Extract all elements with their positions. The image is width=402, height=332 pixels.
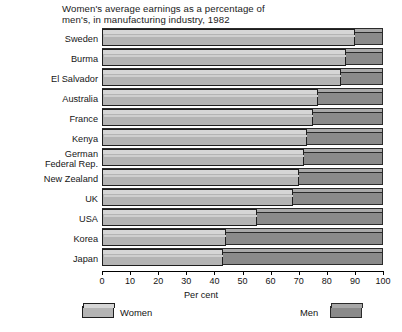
- bar-women-top-face: [102, 169, 299, 174]
- bar-row: [102, 128, 383, 148]
- legend-label-women: Women: [120, 307, 152, 318]
- x-axis-tick: [355, 271, 356, 275]
- x-axis-tick: [271, 271, 272, 275]
- bar-women-top-face: [102, 149, 304, 154]
- bar-women-top-face: [102, 29, 355, 34]
- bar-women-highlight: [104, 35, 355, 37]
- category-label-line: Korea: [2, 234, 98, 244]
- bar-women-highlight: [104, 255, 223, 257]
- bar-women-top-face: [102, 69, 341, 74]
- x-axis-tick-label: 100: [368, 276, 398, 286]
- bar-women: [102, 213, 257, 226]
- category-label-line: USA: [2, 214, 98, 224]
- bar-women: [102, 153, 304, 166]
- x-axis-tick-label: 80: [312, 276, 342, 286]
- bar-women-highlight: [104, 235, 226, 237]
- bar-row: [102, 228, 383, 248]
- category-label: GermanFederal Rep.: [2, 149, 98, 169]
- category-label: Korea: [2, 234, 98, 244]
- x-axis-tick-label: 30: [171, 276, 201, 286]
- bar-women: [102, 133, 307, 146]
- x-axis-tick: [130, 271, 131, 275]
- bar-women: [102, 173, 299, 186]
- bar-women-highlight: [104, 155, 304, 157]
- category-label: Japan: [2, 254, 98, 264]
- bar-women: [102, 253, 223, 266]
- x-axis-tick: [327, 271, 328, 275]
- bar-women-top-face: [102, 129, 307, 134]
- x-axis-tick: [214, 271, 215, 275]
- bar-row: [102, 88, 383, 108]
- bar-women: [102, 73, 341, 86]
- x-axis-tick-label: 10: [115, 276, 145, 286]
- category-label-line: Japan: [2, 254, 98, 264]
- x-axis-tick: [243, 271, 244, 275]
- category-label: Australia: [2, 94, 98, 104]
- category-label-line: Kenya: [2, 134, 98, 144]
- bar-women-top-face: [102, 89, 318, 94]
- bar-women-highlight: [104, 175, 299, 177]
- x-axis-tick-label: 90: [340, 276, 370, 286]
- bar-women-highlight: [104, 95, 318, 97]
- bar-women-highlight: [104, 55, 346, 57]
- bar-women-top-face: [102, 229, 226, 234]
- bar-women: [102, 33, 355, 46]
- bar-row: [102, 188, 383, 208]
- category-label-line: New Zealand: [2, 174, 98, 184]
- category-label-line: El Salvador: [2, 74, 98, 84]
- bar-women-highlight: [104, 135, 307, 137]
- bar-chart: Women's average earnings as a percentage…: [0, 0, 402, 332]
- bar-women: [102, 53, 346, 66]
- x-axis-tick-label: 50: [228, 276, 258, 286]
- bar-row: [102, 208, 383, 228]
- category-label-line: France: [2, 114, 98, 124]
- bar-women-top-face: [102, 249, 223, 254]
- category-label: Kenya: [2, 134, 98, 144]
- x-axis-tick: [186, 271, 187, 275]
- bar-women: [102, 233, 226, 246]
- category-label-line: German: [2, 149, 98, 159]
- category-axis-labels: SwedenBurmaEl SalvadorAustraliaFranceKen…: [0, 28, 98, 268]
- bar-women-highlight: [104, 195, 293, 197]
- category-label: Burma: [2, 54, 98, 64]
- chart-title: Women's average earnings as a percentage…: [62, 3, 322, 26]
- legend-label-men: Men: [300, 307, 318, 318]
- bar-row: [102, 168, 383, 188]
- bar-row: [102, 108, 383, 128]
- bar-row: [102, 248, 383, 268]
- category-label: UK: [2, 194, 98, 204]
- legend-swatch-men: [330, 306, 362, 318]
- x-axis-tick-label: 60: [256, 276, 286, 286]
- x-axis-tick-label: 20: [143, 276, 173, 286]
- category-label: Sweden: [2, 34, 98, 44]
- category-label: El Salvador: [2, 74, 98, 84]
- bar-women: [102, 193, 293, 206]
- category-label: New Zealand: [2, 174, 98, 184]
- chart-title-line-2: men's, in manufacturing industry, 1982: [62, 14, 322, 25]
- category-label-line: Burma: [2, 54, 98, 64]
- x-axis-tick-label: 0: [87, 276, 117, 286]
- bar-row: [102, 28, 383, 48]
- bar-women: [102, 113, 313, 126]
- bar-women: [102, 93, 318, 106]
- category-label-line: Australia: [2, 94, 98, 104]
- x-axis-tick: [383, 271, 384, 275]
- bar-row: [102, 48, 383, 68]
- bar-row: [102, 148, 383, 168]
- legend-swatch-women: [82, 306, 114, 318]
- x-axis-tick: [299, 271, 300, 275]
- x-axis-tick: [102, 271, 103, 275]
- chart-title-line-1: Women's average earnings as a percentage…: [62, 3, 322, 14]
- category-label-line: Federal Rep.: [2, 159, 98, 169]
- bar-women-top-face: [102, 109, 313, 114]
- category-label-line: Sweden: [2, 34, 98, 44]
- bar-women-highlight: [104, 75, 341, 77]
- x-axis-tick-label: 40: [199, 276, 229, 286]
- bar-women-top-face: [102, 49, 346, 54]
- x-axis-tick: [158, 271, 159, 275]
- legend-swatch-men-top: [331, 303, 363, 308]
- category-label-line: UK: [2, 194, 98, 204]
- bar-women-top-face: [102, 189, 293, 194]
- category-label: France: [2, 114, 98, 124]
- bar-women-highlight: [104, 115, 313, 117]
